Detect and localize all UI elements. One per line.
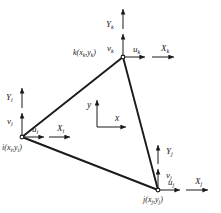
label-y-global: y [87,101,91,111]
label-X-i: Xi [57,124,64,133]
label-Y-j: Yj [166,147,173,156]
element-edges [22,57,158,190]
diagram-canvas [0,0,221,213]
label-u-k: uk [133,45,140,54]
edge-k-j [123,57,158,190]
node-label-k: k(xk,yk) [73,49,96,57]
label-u-j: uj [168,178,174,187]
edge-i-j [22,137,158,190]
global-axes [97,100,126,127]
node-label-j: j(xj,yj) [143,196,163,204]
label-X-k: Xk [161,44,169,53]
node-label-i: i(xi,yi) [2,144,22,152]
label-X-j: Xj [195,177,202,186]
label-Y-i: Yi [6,93,13,102]
label-v-i: vi [7,117,13,126]
label-x-global: x [115,114,119,124]
triangular-element-diagram: Yk vk uk Xk k(xk,yk) Yi vi ui Xi i(xi,yi… [0,0,221,213]
label-v-k: vk [107,44,114,53]
node-markers [20,55,160,192]
label-Y-k: Yk [106,20,114,29]
label-u-i: ui [32,125,38,134]
